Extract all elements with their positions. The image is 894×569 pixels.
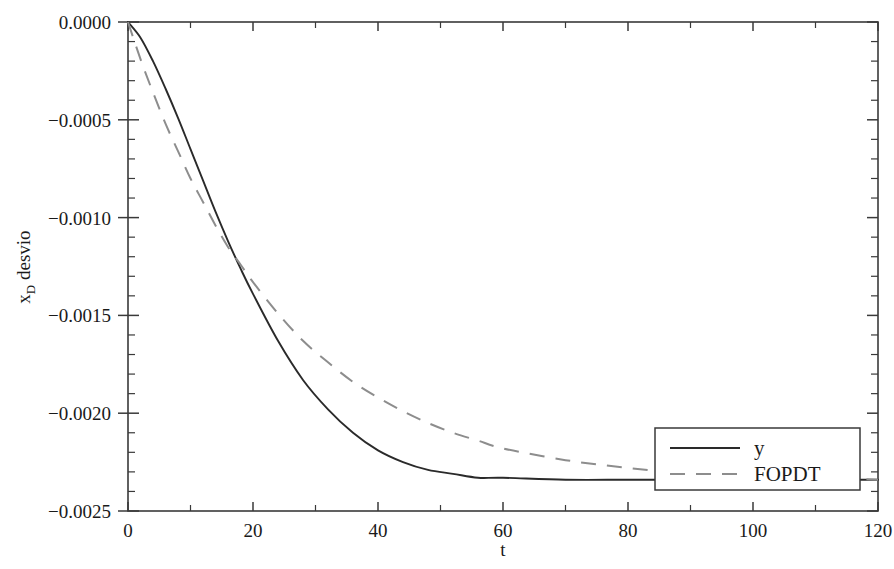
- chart-figure: 020406080100120 0.0000−0.0005−0.0010−0.0…: [0, 0, 894, 569]
- line-chart: 020406080100120 0.0000−0.0005−0.0010−0.0…: [0, 0, 894, 569]
- x-tick-label: 100: [739, 520, 768, 541]
- x-tick-label: 120: [864, 520, 893, 541]
- y-tick-label: 0.0000: [59, 12, 111, 33]
- legend-label-fopdt: FOPDT: [754, 462, 821, 486]
- x-tick-label: 0: [123, 520, 133, 541]
- y-tick-label: −0.0015: [48, 305, 111, 326]
- series-fopdt: [128, 22, 878, 480]
- y-tick-label: −0.0010: [48, 208, 111, 229]
- y-axis-title-base: x: [13, 294, 34, 304]
- y-tick-label: −0.0025: [48, 501, 111, 522]
- y-axis-title-subscript: D: [23, 285, 38, 294]
- legend: y FOPDT: [655, 428, 860, 490]
- y-axis-title: xD desvio: [13, 230, 38, 303]
- x-tick-label: 40: [369, 520, 388, 541]
- series-y: [128, 22, 878, 480]
- x-tick-label: 80: [619, 520, 638, 541]
- y-tick-label: −0.0020: [48, 403, 111, 424]
- x-tick-label: 60: [494, 520, 513, 541]
- data-series-group: [128, 22, 878, 480]
- svg-text:xD desvio: xD desvio: [13, 230, 38, 303]
- x-tick-label: 20: [244, 520, 263, 541]
- y-axis-tick-labels: 0.0000−0.0005−0.0010−0.0015−0.0020−0.002…: [48, 12, 111, 522]
- legend-label-y: y: [754, 436, 765, 460]
- x-axis-title: t: [500, 539, 506, 560]
- y-axis-title-rest: desvio: [13, 230, 34, 284]
- x-axis-tick-labels: 020406080100120: [123, 520, 892, 541]
- y-tick-label: −0.0005: [48, 110, 111, 131]
